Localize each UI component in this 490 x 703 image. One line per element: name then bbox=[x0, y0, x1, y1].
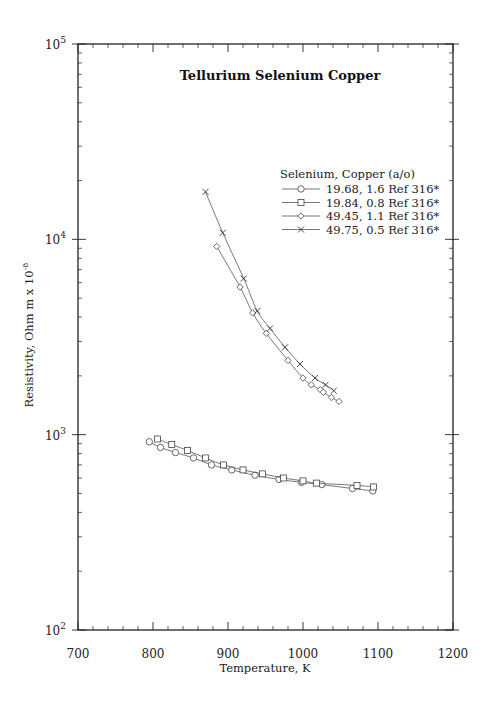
series-line bbox=[206, 192, 334, 391]
circle-marker-icon bbox=[190, 455, 196, 461]
circle-marker-icon bbox=[172, 449, 178, 455]
diamond-marker-icon bbox=[298, 213, 304, 219]
series-line bbox=[158, 439, 374, 487]
x-tick-label: 800 bbox=[142, 647, 165, 661]
x-tick-label: 900 bbox=[217, 647, 240, 661]
circle-marker-icon bbox=[146, 439, 152, 445]
y-tick-label: 104 bbox=[45, 230, 66, 247]
square-marker-icon bbox=[298, 200, 304, 206]
diamond-marker-icon bbox=[237, 284, 243, 290]
legend-label: 49.75, 0.5 Ref 316* bbox=[326, 223, 440, 237]
square-marker-icon bbox=[314, 480, 320, 486]
x-tick-label: 1100 bbox=[363, 647, 394, 661]
legend-item: 49.75, 0.5 Ref 316* bbox=[282, 223, 440, 237]
legend-item: 19.68, 1.6 Ref 316* bbox=[282, 182, 440, 196]
square-marker-icon bbox=[371, 484, 377, 490]
square-marker-icon bbox=[169, 442, 175, 448]
legend-label: 19.68, 1.6 Ref 316* bbox=[326, 182, 440, 196]
square-marker-icon bbox=[281, 475, 287, 481]
y-tick-label: 102 bbox=[45, 621, 66, 638]
series-square bbox=[155, 436, 377, 490]
square-marker-icon bbox=[203, 455, 209, 461]
diamond-marker-icon bbox=[328, 394, 334, 400]
square-marker-icon bbox=[221, 462, 227, 468]
diamond-marker-icon bbox=[214, 243, 220, 249]
x-tick-label: 1200 bbox=[438, 647, 469, 661]
diamond-marker-icon bbox=[263, 330, 269, 336]
square-marker-icon bbox=[155, 436, 161, 442]
plot-frame bbox=[78, 44, 453, 630]
diamond-marker-icon bbox=[336, 398, 342, 404]
series-line bbox=[217, 246, 339, 401]
y-tick-label: 105 bbox=[45, 35, 66, 52]
chart: 700800900100011001200102103104105 Tellur… bbox=[0, 0, 490, 703]
series-circle bbox=[146, 439, 376, 495]
legend-title: Selenium, Copper (a/o) bbox=[280, 167, 415, 181]
chart-title: Tellurium Selenium Copper bbox=[180, 68, 381, 83]
y-tick-label: 103 bbox=[45, 426, 66, 443]
legend-label: 19.84, 0.8 Ref 316* bbox=[326, 196, 440, 210]
x-tick-label: 700 bbox=[67, 647, 90, 661]
series-diamond bbox=[214, 243, 343, 404]
circle-marker-icon bbox=[157, 444, 163, 450]
legend-item: 49.45, 1.1 Ref 316* bbox=[282, 209, 440, 223]
plot-axes: 700800900100011001200102103104105 bbox=[45, 35, 468, 661]
circle-marker-icon bbox=[208, 462, 214, 468]
series-x bbox=[203, 189, 337, 394]
square-marker-icon bbox=[240, 467, 246, 473]
x-axis-label: Temperature, K bbox=[219, 661, 311, 675]
square-marker-icon bbox=[300, 478, 306, 484]
y-axis-label-exponent: -8 bbox=[21, 263, 30, 271]
legend: Selenium, Copper (a/o) 19.68, 1.6 Ref 31… bbox=[280, 167, 440, 237]
square-marker-icon bbox=[354, 482, 360, 488]
y-axis-label-text: Resistivity, Ohm m x 10 bbox=[22, 270, 36, 407]
circle-marker-icon bbox=[298, 186, 304, 192]
y-axis-label: Resistivity, Ohm m x 10-8 bbox=[21, 263, 36, 408]
legend-item: 19.84, 0.8 Ref 316* bbox=[282, 196, 440, 210]
x-tick-label: 1000 bbox=[288, 647, 319, 661]
legend-label: 49.45, 1.1 Ref 316* bbox=[326, 209, 440, 223]
square-marker-icon bbox=[260, 471, 266, 477]
svg-text:Resistivity, Ohm m x 10-8: Resistivity, Ohm m x 10-8 bbox=[21, 263, 36, 408]
diamond-marker-icon bbox=[308, 382, 314, 388]
square-marker-icon bbox=[185, 447, 191, 453]
series-line bbox=[149, 442, 373, 491]
